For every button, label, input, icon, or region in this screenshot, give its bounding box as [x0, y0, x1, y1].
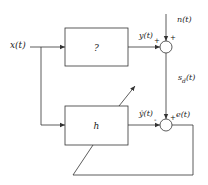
adaptation-arrow	[119, 86, 135, 106]
sum-bottom-left-sign: -	[154, 116, 157, 124]
sum-top-left-sign: +	[154, 37, 160, 45]
unknown-system-label: ?	[94, 43, 99, 53]
estimate-label: ŷ(t)	[138, 109, 153, 118]
noise-label: n(t)	[177, 15, 192, 24]
adaptive-filter-block: h	[65, 106, 128, 145]
input-signal-label: x(t)	[10, 40, 26, 50]
sum-junction-top: + +	[154, 34, 176, 53]
sum-junction-bottom: - +	[154, 114, 176, 131]
input-to-filter-arrow	[41, 47, 65, 125]
error-label: e(t)	[176, 110, 190, 119]
sum-top-top-sign: +	[170, 34, 176, 42]
unknown-output-label: y(t)	[138, 31, 153, 40]
adaptive-filter-label: h	[94, 121, 100, 131]
desired-signal-label: sd(t)	[178, 73, 195, 84]
system-identification-diagram: x(t) ? y(t) n(t) + + sd(t) h ŷ(t) - + e(…	[0, 0, 208, 185]
unknown-system-block: ?	[65, 28, 128, 66]
